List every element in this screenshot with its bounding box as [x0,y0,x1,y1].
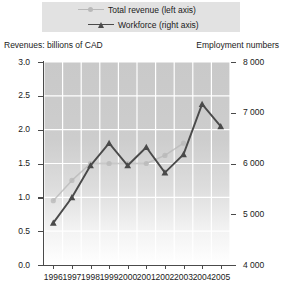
data-point-marker [162,153,167,158]
x-tick-mark [72,265,73,269]
data-point-marker [51,198,56,203]
right-tick-mark [231,113,236,114]
left-tick-label: 3.0 [18,58,30,67]
chart-legend: Total revenue (left axis) Workforce (rig… [42,2,240,32]
x-tick-mark [53,265,54,269]
legend-item-total-revenue: Total revenue (left axis) [42,2,240,17]
left-tick-mark [38,62,43,63]
left-tick-mark [38,96,43,97]
data-point-marker [106,140,113,146]
x-tick-label: 2005 [206,272,236,282]
data-point-marker [181,141,186,146]
right-tick-label: 6 000 [243,159,264,168]
right-tick-mark [231,62,236,63]
right-axis-title: Employment numbers [196,40,279,50]
left-tick-label: 0.5 [18,227,30,236]
right-tick-mark [231,164,236,165]
left-tick-label: 1.0 [18,193,30,202]
legend-label-workforce: Workforce (right axis) [118,20,199,30]
plot-area [44,62,230,265]
left-tick-label: 2.0 [18,125,30,134]
left-tick-mark [38,197,43,198]
right-tick-mark [231,265,236,266]
x-tick-mark [221,265,222,269]
triangle-line-icon [88,20,114,30]
left-tick-label: 2.5 [18,91,30,100]
left-tick-mark [38,164,43,165]
left-axis-title: Revenues: billions of CAD [4,40,103,50]
data-point-marker [199,101,206,107]
right-tick-label: 5 000 [243,210,264,219]
x-tick-mark [184,265,185,269]
x-tick-mark [109,265,110,269]
data-point-marker [180,151,187,157]
data-point-marker [69,178,74,183]
data-point-marker [144,161,149,166]
x-tick-mark [146,265,147,269]
data-series-layer [44,62,230,265]
data-point-marker [107,161,112,166]
legend-label-total-revenue: Total revenue (left axis) [108,5,196,15]
left-axis-spine [43,61,44,266]
data-point-marker [143,144,150,150]
left-tick-mark [38,265,43,266]
left-tick-label: 0.0 [18,261,30,270]
x-tick-mark [202,265,203,269]
right-tick-label: 8 000 [243,58,264,67]
left-tick-label: 1.5 [18,159,30,168]
right-tick-mark [231,214,236,215]
x-tick-mark [165,265,166,269]
x-tick-mark [128,265,129,269]
right-tick-label: 7 000 [243,108,264,117]
legend-item-workforce: Workforce (right axis) [42,17,240,32]
chart-container: Total revenue (left axis) Workforce (rig… [0,0,282,291]
x-tick-mark [91,265,92,269]
left-tick-mark [38,130,43,131]
left-tick-mark [38,231,43,232]
circle-line-icon [78,5,104,15]
right-tick-label: 4 000 [243,261,264,270]
